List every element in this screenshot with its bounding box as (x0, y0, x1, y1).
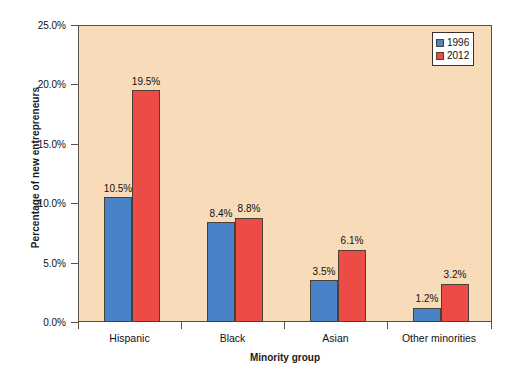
bar-label-other-minorities-2012: 3.2% (444, 269, 467, 280)
x-tick-label-hispanic: Hispanic (109, 332, 149, 344)
y-tick-label-25: 25.0% (2, 20, 66, 31)
bar-label-black-2012: 8.8% (238, 203, 261, 214)
bar-label-hispanic-1996: 10.5% (104, 183, 132, 194)
x-tick-label-other-minorities: Other minorities (402, 332, 476, 344)
bar-chart: Percentage of new entrepreneurs 25.0% 20… (0, 0, 519, 376)
x-tick-label-black: Black (220, 332, 246, 344)
y-tick-label-15: 15.0% (2, 138, 66, 149)
y-tick-label-10: 10.0% (2, 198, 66, 209)
y-tick-5 (71, 263, 78, 264)
x-tick-0 (78, 322, 79, 329)
legend-swatch-2012-icon (436, 52, 444, 60)
y-tick-15 (71, 144, 78, 145)
legend-item-1996: 1996 (436, 36, 469, 49)
y-tick-label-5: 5.0% (2, 257, 66, 268)
bar-label-black-1996: 8.4% (210, 208, 233, 219)
bar-other-minorities-2012 (441, 284, 469, 322)
bar-other-minorities-1996 (413, 308, 441, 322)
legend-swatch-1996-icon (436, 39, 444, 47)
legend-item-2012: 2012 (436, 49, 469, 62)
y-tick-25 (71, 25, 78, 26)
x-axis-title: Minority group (78, 352, 492, 363)
x-tick-label-asian: Asian (322, 332, 348, 344)
bar-hispanic-2012 (132, 90, 160, 322)
legend: 1996 2012 (432, 32, 474, 66)
legend-label-1996: 1996 (447, 38, 469, 48)
bar-black-2012 (235, 218, 263, 323)
y-tick-10 (71, 203, 78, 204)
legend-label-2012: 2012 (447, 51, 469, 61)
bar-label-other-minorities-1996: 1.2% (416, 293, 439, 304)
bar-label-asian-1996: 3.5% (313, 266, 336, 277)
bar-label-asian-2012: 6.1% (341, 235, 364, 246)
y-tick-label-20: 20.0% (2, 79, 66, 90)
y-tick-label-0: 0.0% (2, 317, 66, 328)
bar-black-1996 (207, 222, 235, 322)
bar-asian-1996 (310, 280, 338, 322)
bar-asian-2012 (338, 250, 366, 323)
y-tick-0 (71, 322, 78, 323)
x-tick-2 (284, 322, 285, 329)
y-tick-20 (71, 84, 78, 85)
x-tick-3 (387, 322, 388, 329)
x-tick-1 (181, 322, 182, 329)
bar-hispanic-1996 (104, 197, 132, 322)
bar-label-hispanic-2012: 19.5% (132, 76, 160, 87)
x-tick-4 (491, 322, 492, 329)
